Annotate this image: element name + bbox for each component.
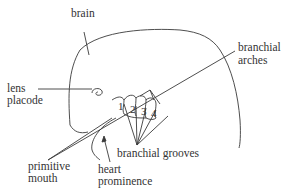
lens-placode-shape: [92, 89, 102, 96]
arch-number-4: 4: [151, 107, 157, 119]
arch-number-2: 2: [130, 103, 136, 115]
groove-leader-line-5: [137, 116, 168, 145]
label-primitive-mouth-line1: primitive: [28, 161, 70, 172]
label-branchial-grooves: branchial grooves: [117, 148, 199, 159]
label-branchial-arches-line1: branchial: [238, 42, 281, 53]
arch-number-1: 1: [118, 100, 124, 112]
face-lower-outline: [70, 125, 88, 133]
label-primitive-mouth-line2: mouth: [28, 173, 57, 184]
primitive-mouth-leader-line: [48, 118, 112, 160]
groove-leader-line-2: [136, 106, 137, 145]
embryo-diagram: 1 2 3 4 brain branchial arches lens plac…: [0, 0, 287, 194]
heart-prominence-arrowhead: [102, 136, 106, 142]
label-heart-prominence-line1: heart: [98, 164, 121, 175]
label-heart-prominence-line2: prominence: [98, 176, 152, 187]
label-lens-placode-line1: lens: [7, 83, 26, 94]
arches-top-leader-3: [150, 90, 160, 104]
arches-top-leader-1: [140, 90, 150, 96]
label-brain: brain: [71, 8, 95, 19]
label-branchial-arches-line2: arches: [238, 55, 267, 66]
arch-number-3: 3: [141, 105, 147, 117]
label-lens-placode-line2: placode: [7, 95, 43, 106]
